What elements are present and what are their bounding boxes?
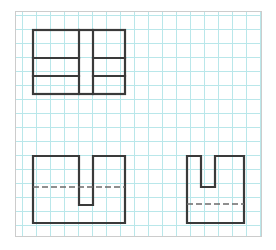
front-view-profile	[33, 156, 125, 223]
side-view	[187, 156, 244, 223]
graph-paper-sheet	[15, 11, 262, 237]
top-view	[33, 30, 125, 94]
orthographic-drawing	[16, 12, 262, 237]
side-view-profile	[187, 156, 244, 223]
drawing-canvas	[0, 0, 276, 250]
front-view	[33, 156, 125, 223]
